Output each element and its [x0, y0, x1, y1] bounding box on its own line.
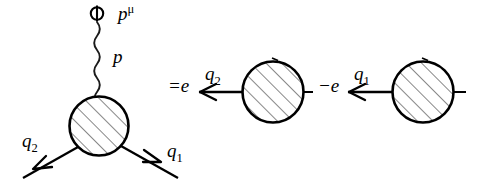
label-minus-charge: −e	[318, 76, 339, 95]
label-equals-charge: =e	[168, 76, 189, 95]
label-q2-mid: q2	[205, 64, 221, 87]
vertex-blob-right	[389, 58, 459, 128]
label-q1-right: q1	[354, 64, 370, 87]
vertex-blob-left	[66, 93, 134, 161]
feynman-diagram-figure: pμ p q2 q1 =e q2 −e q1	[0, 0, 494, 185]
label-photon-momentum: p	[113, 47, 123, 66]
wavy-photon-line-icon	[94, 22, 100, 100]
diagram-canvas	[0, 0, 494, 185]
circled-cross-icon	[91, 6, 103, 22]
label-q2-left: q2	[22, 131, 38, 154]
vertex-blob-mid	[239, 58, 309, 128]
label-q1-left: q1	[167, 141, 183, 164]
label-photon-momentum-index: pμ	[118, 3, 134, 23]
